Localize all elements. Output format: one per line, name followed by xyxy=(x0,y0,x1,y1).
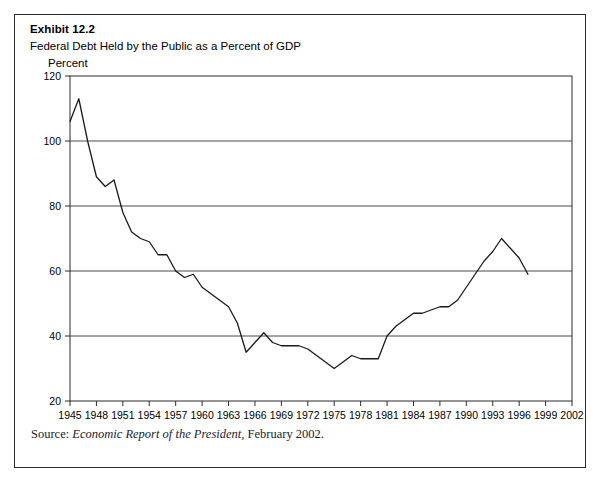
x-axis-tick-label: 1993 xyxy=(481,409,505,421)
y-axis-tick-label: 80 xyxy=(49,200,61,212)
gridlines-group xyxy=(70,141,572,336)
x-axis-tick-label: 1969 xyxy=(270,409,294,421)
x-axis-tick-label: 1945 xyxy=(58,409,82,421)
plot-area: 20406080100120 1945194819511954195719601… xyxy=(15,15,587,469)
y-axis-tick-label: 60 xyxy=(49,265,61,277)
y-axis-tick-label: 40 xyxy=(49,330,61,342)
y-axis-tick-label: 20 xyxy=(49,395,61,407)
line-chart-svg: 20406080100120 1945194819511954195719601… xyxy=(15,15,587,469)
x-axis-tick-label: 1984 xyxy=(402,409,426,421)
plot-frame-border xyxy=(70,76,572,401)
x-axis-tick-label: 1951 xyxy=(111,409,135,421)
y-axis-tick-label: 100 xyxy=(43,135,61,147)
x-axis-tick-label: 1978 xyxy=(349,409,373,421)
source-publication: Economic Report of the President xyxy=(72,427,241,441)
x-axis-tick-label: 1954 xyxy=(138,409,162,421)
source-note: Source: Economic Report of the President… xyxy=(31,427,324,442)
x-axis-tick-label: 2002 xyxy=(560,409,584,421)
x-axis-tick-label: 1948 xyxy=(85,409,109,421)
x-axis-tick-label: 1996 xyxy=(507,409,531,421)
y-axis-tick-label: 120 xyxy=(43,70,61,82)
x-axis-tick-label: 1957 xyxy=(164,409,188,421)
x-axis-tick-label: 1972 xyxy=(296,409,320,421)
exhibit-figure-box: Exhibit 12.2 Federal Debt Held by the Pu… xyxy=(14,14,586,468)
source-prefix: Source: xyxy=(31,427,72,441)
x-axis-tick-label: 1960 xyxy=(190,409,214,421)
x-axis-tick-label: 1975 xyxy=(323,409,347,421)
x-axis-ticks-group: 1945194819511954195719601963196619691972… xyxy=(58,401,584,421)
x-axis-tick-label: 1999 xyxy=(534,409,558,421)
x-axis-tick-label: 1963 xyxy=(217,409,241,421)
y-axis-ticks-group: 20406080100120 xyxy=(43,70,70,407)
debt-gdp-data-line xyxy=(70,99,528,369)
x-axis-tick-label: 1981 xyxy=(375,409,399,421)
x-axis-tick-label: 1990 xyxy=(455,409,479,421)
source-suffix: , February 2002. xyxy=(241,427,324,441)
x-axis-tick-label: 1987 xyxy=(428,409,452,421)
x-axis-tick-label: 1966 xyxy=(243,409,267,421)
